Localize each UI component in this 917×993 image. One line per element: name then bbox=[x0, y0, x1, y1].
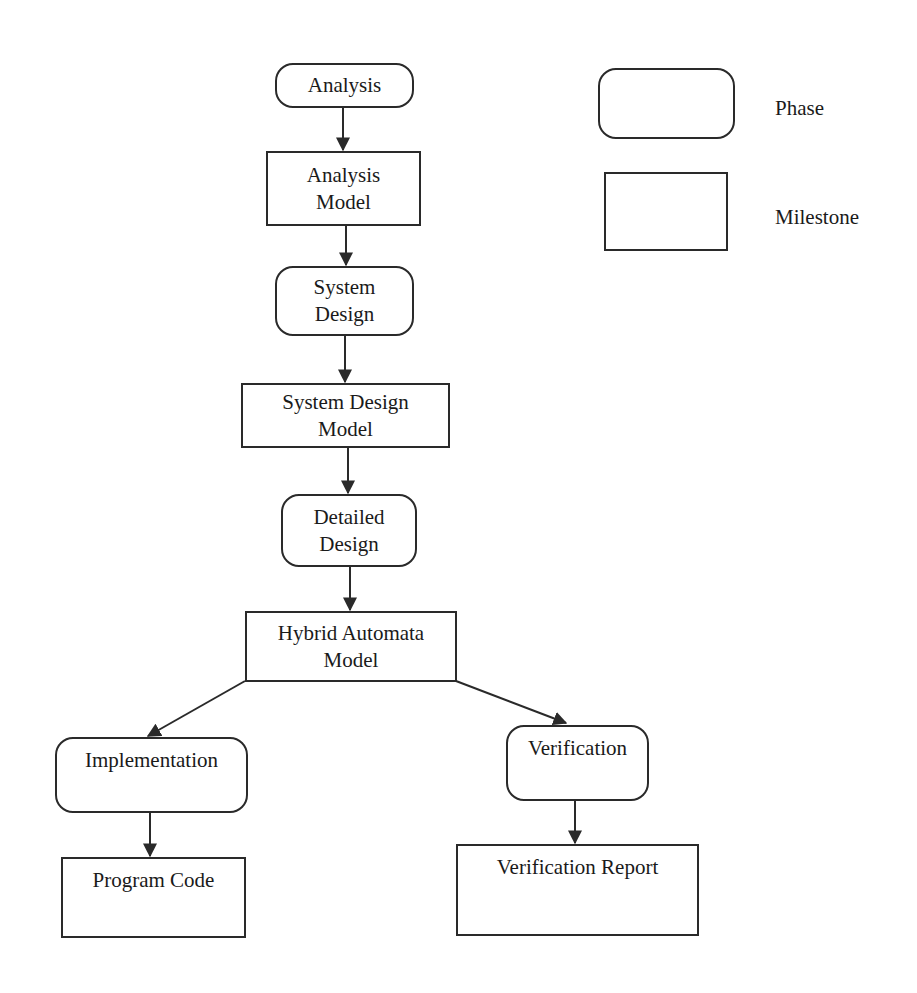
node-verification: Verification bbox=[506, 725, 649, 801]
node-implementation: Implementation bbox=[55, 737, 248, 813]
node-analysis-model: Analysis Model bbox=[266, 151, 421, 226]
node-label: Verification Report bbox=[497, 854, 659, 881]
node-label: Implementation bbox=[85, 747, 218, 774]
arrow-hybrid-to-implementation bbox=[148, 681, 245, 736]
node-label: Verification bbox=[528, 735, 627, 762]
node-detailed-design: Detailed Design bbox=[281, 494, 417, 567]
legend-phase-shape bbox=[598, 68, 735, 139]
node-analysis: Analysis bbox=[275, 63, 414, 108]
node-label: Analysis bbox=[307, 162, 381, 189]
node-label: Model bbox=[324, 647, 379, 674]
legend-phase-label: Phase bbox=[775, 96, 824, 121]
legend-milestone-label: Milestone bbox=[775, 205, 859, 230]
node-label: Model bbox=[316, 189, 371, 216]
node-label: Design bbox=[319, 531, 379, 558]
node-system-design-model: System Design Model bbox=[241, 383, 450, 448]
node-label: Detailed bbox=[313, 504, 384, 531]
node-verification-report: Verification Report bbox=[456, 844, 699, 936]
node-hybrid-automata-model: Hybrid Automata Model bbox=[245, 611, 457, 682]
node-label: Program Code bbox=[93, 867, 215, 894]
node-label: Model bbox=[318, 416, 373, 443]
node-system-design: System Design bbox=[275, 266, 414, 336]
arrow-hybrid-to-verification bbox=[456, 681, 566, 723]
node-program-code: Program Code bbox=[61, 857, 246, 938]
node-label: System Design bbox=[282, 389, 409, 416]
legend-milestone-shape bbox=[604, 172, 728, 251]
node-label: Analysis bbox=[308, 72, 382, 99]
node-label: System bbox=[314, 274, 376, 301]
node-label: Hybrid Automata bbox=[278, 620, 424, 647]
node-label: Design bbox=[315, 301, 375, 328]
